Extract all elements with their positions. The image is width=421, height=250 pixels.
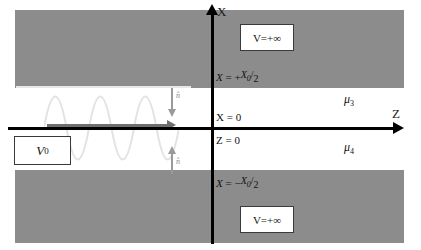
normal-vector-top-line	[171, 88, 173, 110]
upper-boundary-equals: =	[225, 71, 231, 83]
source-box: V0	[14, 136, 71, 165]
potential-box-top: V=+∞	[240, 24, 294, 51]
z-axis-arrowhead	[393, 122, 404, 134]
permeability-lower-sub: 4	[350, 147, 354, 156]
z-axis-line	[8, 127, 396, 130]
origin-x-label: X = 0	[216, 111, 241, 123]
upper-boundary-lhs: X	[216, 71, 223, 83]
upper-boundary-denominator: 2	[254, 73, 259, 84]
origin-z-label: Z = 0	[216, 134, 240, 146]
normal-vector-top-label: n̂	[176, 91, 180, 100]
source-label-sub: 0	[44, 146, 49, 156]
upper-boundary-label: X = +X0/2	[216, 71, 259, 86]
potential-box-bottom: V=+∞	[240, 206, 294, 233]
x-axis-line	[211, 14, 214, 244]
figure-canvas: X Z X = +X0/2 X = −X0/2 X = 0 Z = 0 μ3 μ…	[0, 0, 421, 250]
lower-boundary-label: X = −X0/2	[216, 177, 259, 192]
lower-boundary-equals: =	[225, 177, 231, 189]
x-axis-label: X	[217, 4, 226, 20]
source-label: V	[36, 143, 44, 159]
normal-vector-top-head	[168, 109, 176, 117]
wall-region-top	[15, 10, 404, 88]
normal-vector-bottom-label: n̂	[176, 157, 180, 166]
z-axis-label: Z	[392, 106, 400, 122]
permeability-upper-label: μ3	[344, 92, 354, 108]
normal-vector-bottom-line	[171, 152, 173, 174]
lower-boundary-denominator: 2	[254, 179, 259, 190]
normal-vector-bottom-head	[168, 146, 176, 154]
lower-boundary-lhs: X	[216, 177, 223, 189]
wall-region-bottom	[15, 170, 404, 243]
permeability-upper-sub: 3	[350, 99, 354, 108]
permeability-lower-label: μ4	[344, 140, 354, 156]
